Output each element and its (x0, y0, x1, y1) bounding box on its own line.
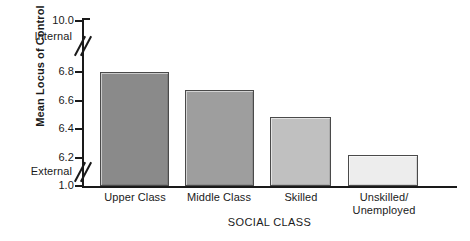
x-axis-title: SOCIAL CLASS (82, 216, 457, 228)
y-tick-label-10-0: 10.0 (30, 14, 74, 26)
x-category-label-line1: Unskilled/ (338, 191, 430, 204)
x-category-label-line2: Unemployed (338, 204, 430, 217)
x-axis-line (82, 186, 457, 188)
y-tick-label-1-0: 1.0 (30, 179, 74, 191)
y-tick-mark-6-2 (75, 157, 82, 159)
x-category-label-middle-class: Middle Class (172, 191, 266, 204)
y-axis-anchor-internal: Internal (0, 30, 72, 42)
x-category-label-upper-class: Upper Class (88, 191, 182, 204)
y-axis-top-cap (82, 18, 90, 20)
y-tick-mark-1-0 (75, 185, 82, 187)
x-category-label-skilled: Skilled (258, 191, 344, 204)
y-axis-break-upper (72, 37, 94, 55)
y-axis-break-lower (72, 163, 94, 181)
y-tick-mark-6-4 (75, 128, 82, 130)
y-tick-label-6-8: 6.8 (30, 65, 74, 77)
y-tick-label-6-6: 6.6 (30, 94, 74, 106)
y-tick-mark-6-6 (75, 100, 82, 102)
bar-chart: Mean Locus of Control Internal External … (0, 0, 470, 241)
bar-unskilled-unemployed (348, 155, 418, 186)
bar-skilled (270, 117, 331, 186)
x-category-label-unskilled-unemployed: Unskilled/ Unemployed (338, 191, 430, 216)
bar-upper-class (100, 72, 169, 186)
bar-middle-class (185, 90, 254, 186)
y-tick-label-6-2: 6.2 (30, 151, 74, 163)
y-tick-label-6-4: 6.4 (30, 122, 74, 134)
y-axis-anchor-external: External (0, 165, 72, 177)
y-tick-mark-10-0 (75, 20, 82, 22)
y-tick-mark-6-8 (75, 71, 82, 73)
